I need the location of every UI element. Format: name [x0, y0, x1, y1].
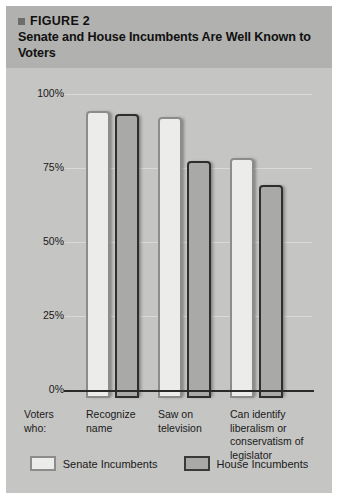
x-label-can-identify: Can identify liberalism or conservatism …	[230, 408, 314, 462]
legend-swatch-senate	[30, 456, 56, 471]
bar-house-saw-on-television[interactable]	[187, 161, 211, 398]
figure-kicker: FIGURE 2	[18, 14, 320, 29]
legend-entry-senate[interactable]: Senate Incumbents	[30, 456, 158, 471]
bar-group-recognize-name	[86, 68, 148, 398]
chart-legend: Senate Incumbents House Incumbents	[6, 456, 332, 471]
axis-baseline	[64, 390, 314, 392]
bars-layer	[64, 68, 314, 398]
y-tick-label-25: 25%	[18, 310, 64, 321]
legend-entry-house[interactable]: House Incumbents	[184, 456, 309, 471]
y-tick-label-100: 100%	[18, 88, 64, 99]
bar-group-saw-on-television	[158, 68, 220, 398]
y-tick-label-0: 0%	[18, 384, 64, 395]
bar-senate-saw-on-television[interactable]	[158, 117, 182, 398]
legend-label-house: House Incumbents	[217, 458, 309, 470]
figure-title: Senate and House Incumbents Are Well Kno…	[18, 30, 318, 61]
bar-house-can-identify[interactable]	[259, 185, 283, 398]
figure-header: FIGURE 2 Senate and House Incumbents Are…	[6, 6, 332, 68]
axis-row-label: Voters who:	[24, 408, 72, 435]
chart-plot-area: 100% 75% 50% 25% 0% Voters who: Recogniz…	[6, 68, 332, 493]
bar-senate-can-identify[interactable]	[230, 158, 254, 398]
x-label-saw-on-television: Saw on television	[158, 408, 216, 435]
y-tick-label-75: 75%	[18, 162, 64, 173]
figure-number-label: FIGURE 2	[30, 15, 90, 28]
bar-senate-recognize-name[interactable]	[86, 111, 110, 398]
bar-group-can-identify	[230, 68, 292, 398]
figure-panel: FIGURE 2 Senate and House Incumbents Are…	[6, 6, 332, 493]
square-bullet-icon	[18, 18, 25, 25]
y-tick-label-50: 50%	[18, 236, 64, 247]
bar-house-recognize-name[interactable]	[115, 114, 139, 398]
x-label-recognize-name: Recognize name	[86, 408, 148, 435]
legend-swatch-house	[184, 456, 210, 471]
legend-label-senate: Senate Incumbents	[63, 458, 158, 470]
